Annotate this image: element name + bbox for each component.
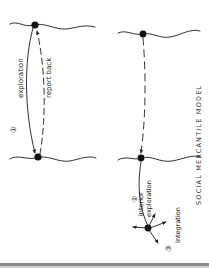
coastline-bottom-right	[118, 156, 201, 161]
node-home-left	[31, 21, 38, 28]
integration-arrow-right	[150, 222, 166, 228]
integration-arrow-down	[149, 230, 158, 243]
coastline-bottom-left	[10, 157, 96, 161]
stage1-number-label: ①	[9, 126, 18, 133]
report-back-arrow	[37, 31, 44, 154]
coastline-top-left	[10, 23, 95, 29]
interior-label: interior	[137, 192, 145, 216]
node-colony-right	[138, 155, 145, 162]
coastline-top-right	[118, 30, 200, 37]
node-home-right	[140, 31, 147, 38]
exploration-arrow	[26, 28, 35, 153]
exploration-label: exploration	[17, 58, 25, 98]
dashed-link-right	[141, 38, 145, 153]
diagram-title: SOCIAL MERCANTILE MODEL	[195, 85, 203, 205]
social-mercantile-diagram: ① exploration report back ② interior exp…	[0, 0, 209, 268]
node-colony-left	[34, 153, 41, 160]
integration-label: Integration	[174, 207, 182, 243]
interior-exploration-label: exploration	[145, 180, 153, 217]
stage3-number-label: ③	[164, 245, 173, 252]
report-back-label: report back	[45, 57, 53, 98]
